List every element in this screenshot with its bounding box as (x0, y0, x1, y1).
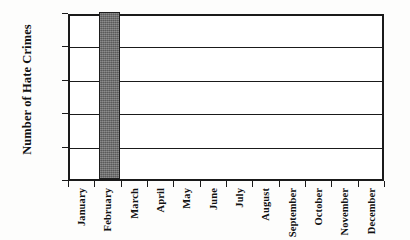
x-tick-mark-11 (358, 181, 359, 187)
x-axis-label-december: December (365, 188, 376, 234)
x-tick-mark-1 (94, 181, 95, 187)
x-tick-mark-4 (173, 181, 174, 187)
x-label-slot-february: February (94, 188, 120, 240)
x-axis-label-march: March (128, 188, 139, 219)
x-axis-label-june: June (207, 188, 218, 210)
x-label-slot-may: May (173, 188, 199, 240)
x-label-slot-january: January (68, 188, 94, 240)
x-label-slot-april: April (147, 188, 173, 240)
y-axis-title: Number of Hate Crimes (20, 0, 35, 180)
bars-layer (70, 16, 382, 179)
x-axis-label-october: October (313, 188, 324, 225)
x-axis-label-august: August (260, 188, 271, 221)
x-label-slot-december: December (358, 188, 384, 240)
plot-area (68, 14, 384, 181)
x-axis-label-november: November (339, 188, 350, 235)
x-tick-mark-9 (305, 181, 306, 187)
bar-february (99, 12, 120, 179)
x-axis-label-february: February (102, 188, 113, 231)
x-axis-label-july: July (234, 188, 245, 208)
x-tick-mark-6 (226, 181, 227, 187)
x-tick-mark-3 (147, 181, 148, 187)
x-tick-mark-5 (200, 181, 201, 187)
x-axis-label-january: January (76, 188, 87, 226)
x-label-slot-june: June (200, 188, 226, 240)
x-axis-label-april: April (155, 188, 166, 212)
bar-chart: Number of Hate Crimes 0246810 JanuaryFeb… (0, 0, 410, 240)
x-tick-mark-7 (252, 181, 253, 187)
x-label-slot-march: March (121, 188, 147, 240)
x-axis-label-may: May (181, 188, 192, 209)
x-label-slot-november: November (331, 188, 357, 240)
x-tick-mark-0 (68, 181, 69, 187)
x-tick-mark-2 (121, 181, 122, 187)
x-label-slot-july: July (226, 188, 252, 240)
x-label-slot-august: August (252, 188, 278, 240)
x-tick-mark-12 (384, 181, 385, 187)
x-axis-label-september: September (286, 188, 297, 237)
x-label-slot-october: October (305, 188, 331, 240)
x-tick-mark-8 (279, 181, 280, 187)
x-tick-mark-10 (331, 181, 332, 187)
x-label-slot-september: September (279, 188, 305, 240)
